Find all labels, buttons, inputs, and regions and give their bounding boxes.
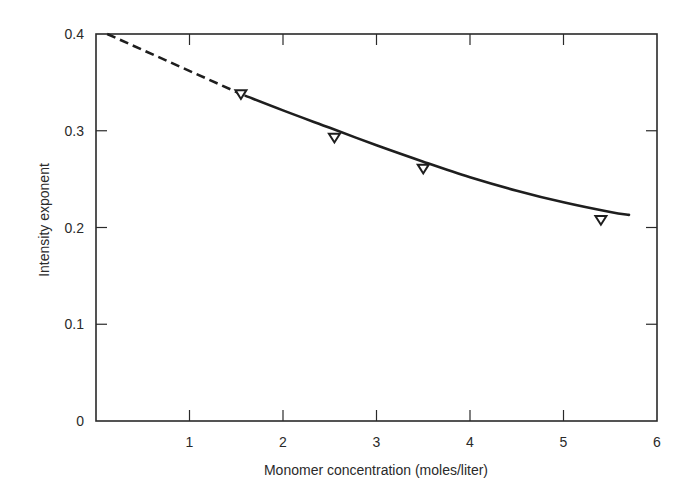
y-tick-label: 0.2 [65, 220, 85, 236]
data-point-triangle [418, 165, 429, 174]
x-tick-label: 2 [279, 434, 287, 450]
x-tick-label: 6 [653, 434, 661, 450]
x-tick-label: 3 [373, 434, 381, 450]
data-point-triangle [329, 134, 340, 143]
y-tick-label: 0.1 [65, 316, 85, 332]
x-tick-label: 1 [186, 434, 194, 450]
y-axis-label: Intensity exponent [36, 163, 52, 277]
extrapolation-dashed-line [107, 34, 241, 94]
y-tick-label: 0 [76, 413, 84, 429]
axis-ticks [96, 34, 657, 421]
x-axis-label: Monomer concentration (moles/liter) [264, 462, 488, 478]
y-tick-labels: 00.10.20.30.4 [65, 26, 85, 429]
data-points [235, 90, 606, 225]
x-tick-labels: 123456 [186, 434, 662, 450]
fitted-curve-line [246, 96, 629, 215]
data-point-triangle [235, 90, 246, 99]
data-point-triangle [595, 216, 606, 225]
y-tick-label: 0.4 [65, 26, 85, 42]
y-tick-label: 0.3 [65, 123, 85, 139]
chart: 123456 00.10.20.30.4 Monomer concentrati… [0, 0, 695, 502]
plot-frame [96, 34, 657, 421]
x-tick-label: 4 [466, 434, 474, 450]
x-tick-label: 5 [560, 434, 568, 450]
